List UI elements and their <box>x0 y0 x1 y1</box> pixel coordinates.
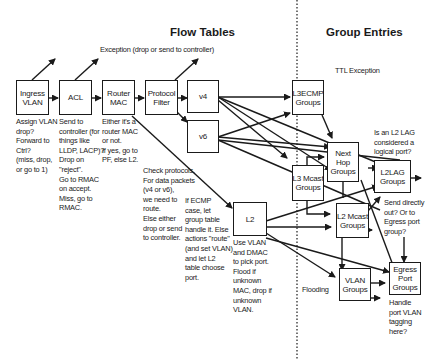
ttl-exception-label: TTL Exception <box>335 66 380 76</box>
vlan-groups: VLAN Groups <box>339 268 371 301</box>
send-directly-note: Send directly out? Or to Egress port gro… <box>384 198 424 236</box>
next-hop-groups: Next Hop Groups <box>327 142 359 182</box>
egress-port-groups: Egress Port Groups <box>389 262 421 295</box>
ecmp-note: If ECMP case, let group table handle it.… <box>185 196 233 282</box>
l2-note: Use VLAN and DMAC to pick port. Flood if… <box>233 238 272 315</box>
l3ecmp-groups: L3ECMP Groups <box>292 80 324 115</box>
v4-table: v4 <box>187 80 219 113</box>
flooding-label: Flooding <box>302 285 329 295</box>
l2lag-question-note: Is an L2 LAG considered a logical port? <box>374 128 415 157</box>
ingress-vlan-note: Assign VLAN drop? Forward to Ctrl? (miss… <box>16 117 57 175</box>
ingress-vlan-table: Ingress VLAN <box>16 80 49 115</box>
acl-table: ACL <box>59 80 92 115</box>
l2lag-groups: L2LAG Groups <box>374 160 411 193</box>
protocol-filter-table: Protocol Filter <box>145 80 178 115</box>
l2-table: L2 <box>233 202 267 236</box>
egress-port-note: Handle port VLAN tagging here? <box>389 298 421 336</box>
l2-mcast-groups: L2 Mcast Groups <box>336 203 369 238</box>
flow-tables-title: Flow Tables <box>170 26 235 38</box>
router-mac-note: Either it's a router MAC or not. If yes,… <box>102 117 138 165</box>
router-mac-table: Router MAC <box>102 80 135 115</box>
v6-table: v6 <box>187 120 219 153</box>
l3-mcast-groups: L3 Mcast Groups <box>292 165 324 201</box>
exception-label: Exception (drop or send to controller) <box>100 45 214 55</box>
group-entries-title: Group Entries <box>326 26 403 38</box>
acl-note: Send to controller (for things like LLDP… <box>59 117 104 213</box>
